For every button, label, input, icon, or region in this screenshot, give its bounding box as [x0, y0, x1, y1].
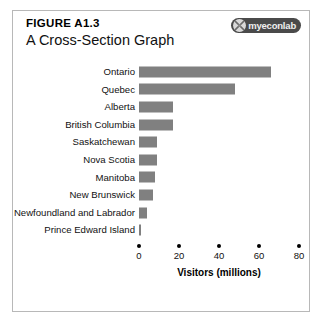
x-axis-title: Visitors (millions): [139, 267, 299, 278]
bar-category-label: Newfoundland and Labrador: [13, 208, 139, 218]
bar-track: [139, 63, 309, 81]
bar-track: [139, 221, 309, 239]
bar-row: Alberta: [13, 98, 309, 116]
bar: [139, 119, 173, 130]
figure-number: FIGURE A1.3: [26, 17, 100, 29]
x-axis-tick-dot: [177, 244, 181, 248]
bar-row: Nova Scotia: [13, 151, 309, 169]
bar-row: Newfoundland and Labrador: [13, 204, 309, 222]
bar: [139, 172, 155, 183]
bar-category-label: Ontario: [13, 67, 139, 77]
bar: [139, 189, 153, 200]
x-axis-tick: 80: [284, 244, 314, 261]
figure-root: FIGURE A1.3 A Cross-Section Graph myecon…: [0, 0, 324, 324]
bar-category-label: Manitoba: [13, 173, 139, 183]
bar: [139, 225, 141, 236]
bar-category-label: Alberta: [13, 102, 139, 112]
figure-frame: FIGURE A1.3 A Cross-Section Graph myecon…: [12, 10, 310, 312]
myeconlab-mark-icon: [233, 19, 246, 32]
bar-track: [139, 169, 309, 187]
bar-track: [139, 204, 309, 222]
bar: [139, 84, 235, 95]
bar-category-label: Saskatchewan: [13, 137, 139, 147]
x-axis-tick-label: 40: [204, 251, 234, 261]
x-axis-tick-dot: [257, 244, 261, 248]
figure-title: A Cross-Section Graph: [26, 32, 174, 48]
x-axis-tick-label: 60: [244, 251, 274, 261]
x-axis-ticks: 020406080Visitors (millions): [139, 244, 309, 304]
myeconlab-logo-text: myeconlab: [248, 21, 298, 31]
bar-track: [139, 186, 309, 204]
bar: [139, 66, 271, 77]
bar: [139, 101, 173, 112]
bar-row: Ontario: [13, 63, 309, 81]
x-axis-tick-label: 20: [164, 251, 194, 261]
bar-category-label: Quebec: [13, 85, 139, 95]
bar-track: [139, 116, 309, 134]
bar-category-label: New Brunswick: [13, 190, 139, 200]
bar-track: [139, 133, 309, 151]
bar-track: [139, 98, 309, 116]
bar-row: New Brunswick: [13, 186, 309, 204]
bar-category-label: Prince Edward Island: [13, 225, 139, 235]
x-axis-tick-dot: [137, 244, 141, 248]
bar-category-label: British Columbia: [13, 120, 139, 130]
x-axis-tick: 0: [124, 244, 154, 261]
x-axis: 020406080Visitors (millions): [13, 244, 309, 304]
bar-track: [139, 81, 309, 99]
bar: [139, 137, 157, 148]
x-axis-tick-dot: [217, 244, 221, 248]
bar-category-label: Nova Scotia: [13, 155, 139, 165]
x-axis-tick-dot: [297, 244, 301, 248]
bar: [139, 154, 157, 165]
bar-row: Manitoba: [13, 169, 309, 187]
x-axis-tick-label: 0: [124, 251, 154, 261]
bar-row: Prince Edward Island: [13, 221, 309, 239]
x-axis-tick: 40: [204, 244, 234, 261]
figure-header: FIGURE A1.3 A Cross-Section Graph myecon…: [13, 11, 309, 59]
x-axis-tick: 60: [244, 244, 274, 261]
bar: [139, 207, 147, 218]
bar-row: Quebec: [13, 81, 309, 99]
x-axis-tick: 20: [164, 244, 194, 261]
x-axis-tick-label: 80: [284, 251, 314, 261]
myeconlab-logo[interactable]: myeconlab: [231, 18, 301, 33]
bar-row: British Columbia: [13, 116, 309, 134]
bar-track: [139, 151, 309, 169]
bar-row: Saskatchewan: [13, 133, 309, 151]
